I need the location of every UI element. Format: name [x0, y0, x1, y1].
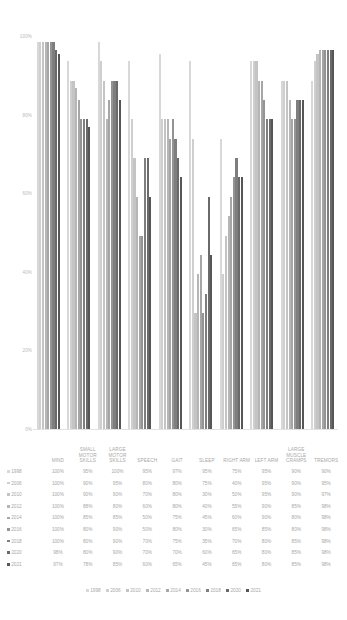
table-column-header: MIND [43, 434, 73, 466]
legend-swatch-icon [106, 589, 109, 592]
table-cell: 75% [192, 478, 222, 490]
legend-label: 2020 [230, 588, 240, 593]
series-swatch-icon [7, 528, 10, 531]
table-cell: 98% [311, 512, 341, 524]
table-cell: 80% [281, 512, 311, 524]
x-axis-line [33, 429, 338, 430]
table-cell: 90% [73, 489, 103, 501]
bar[interactable] [241, 177, 243, 429]
legend-swatch-icon [206, 589, 209, 592]
bar[interactable] [271, 119, 273, 429]
table-cell: 98% [311, 501, 341, 513]
table-cell: 70% [162, 547, 192, 559]
table-column-header: GAIT [162, 434, 192, 466]
table-row-year-label: 2020 [11, 550, 21, 555]
bar[interactable] [119, 100, 121, 429]
table-cell: 75% [162, 512, 192, 524]
legend-item[interactable]: 2016 [186, 588, 201, 593]
table-cell: 90% [281, 466, 311, 478]
bar-groups [33, 42, 338, 429]
table-cell: 35% [192, 536, 222, 548]
table-cell: 55% [222, 501, 252, 513]
table-cell: 80% [281, 524, 311, 536]
table-cell: 85% [103, 559, 133, 571]
table-cell: 65% [222, 547, 252, 559]
legend-item[interactable]: 2021 [246, 588, 261, 593]
table-cell: 75% [162, 536, 192, 548]
bar-group [33, 42, 64, 429]
table-cell: 90% [252, 512, 282, 524]
legend-swatch-icon [246, 589, 249, 592]
legend-swatch-icon [226, 589, 229, 592]
legend-item[interactable]: 2014 [166, 588, 181, 593]
data-table-wrapper: MINDSMALL MOTOR SKILLSLARGE MOTOR SKILLS… [6, 434, 341, 570]
series-swatch-icon [7, 517, 10, 520]
bar[interactable] [210, 255, 212, 429]
table-row-year-label: 2010 [11, 492, 21, 497]
table-cell: 65% [162, 559, 192, 571]
legend-item[interactable]: 2020 [226, 588, 241, 593]
table-row-key: 2018 [6, 536, 43, 548]
table-cell: 80% [162, 489, 192, 501]
bar[interactable] [58, 54, 60, 429]
table-cell: 90% [103, 536, 133, 548]
table-row-year-label: 2012 [11, 504, 21, 509]
table-row-year-label: 2014 [11, 515, 21, 520]
table-body: 1998100%95%100%95%97%95%75%95%90%90%2006… [6, 466, 341, 570]
table-column-header: SPEECH [132, 434, 162, 466]
bar-group [308, 42, 339, 429]
y-axis-tick-label: 100% [20, 34, 32, 39]
bar[interactable] [149, 197, 151, 429]
table-row: 2016100%80%90%50%80%30%65%85%80%98% [6, 524, 341, 536]
bar[interactable] [302, 100, 304, 429]
legend-item[interactable]: 2006 [106, 588, 121, 593]
y-axis-tick-label: 60% [23, 191, 33, 196]
table-cell: 70% [132, 547, 162, 559]
series-swatch-icon [7, 493, 10, 496]
table-row: 2018100%80%90%70%75%35%70%80%85%98% [6, 536, 341, 548]
plot-area [33, 42, 338, 429]
table-cell: 70% [132, 489, 162, 501]
table-cell: 95% [252, 478, 282, 490]
table-cell: 80% [132, 478, 162, 490]
bar[interactable] [332, 50, 334, 429]
table-row-year-label: 2006 [11, 481, 21, 486]
table-cell: 100% [43, 512, 73, 524]
legend-item[interactable]: 2012 [146, 588, 161, 593]
table-cell: 85% [73, 512, 103, 524]
legend-label: 2006 [110, 588, 120, 593]
bar[interactable] [88, 127, 90, 429]
table-cell: 65% [222, 559, 252, 571]
bar[interactable] [180, 177, 182, 429]
bar-group [64, 42, 95, 429]
table-row: 202098%80%90%70%70%60%65%80%85%98% [6, 547, 341, 559]
legend-swatch-icon [166, 589, 169, 592]
table-cell: 95% [192, 466, 222, 478]
legend-swatch-icon [146, 589, 149, 592]
table-cell: 80% [103, 501, 133, 513]
table-cell: 30% [192, 524, 222, 536]
table-cell: 90% [73, 478, 103, 490]
table-row: 2014100%85%85%50%75%45%60%90%80%98% [6, 512, 341, 524]
table-cell: 97% [162, 466, 192, 478]
legend-label: 2016 [190, 588, 200, 593]
table-cell: 90% [103, 547, 133, 559]
legend-item[interactable]: 2018 [206, 588, 221, 593]
table-cell: 70% [222, 536, 252, 548]
table-cell: 95% [311, 478, 341, 490]
table-column-header: LARGE MUSCLE CRAMPS [281, 434, 311, 466]
legend-item[interactable]: 1998 [86, 588, 101, 593]
table-row-key: 1998 [6, 466, 43, 478]
series-swatch-icon [7, 563, 10, 566]
table-cell: 90% [103, 524, 133, 536]
legend-item[interactable]: 2010 [126, 588, 141, 593]
table-cell: 98% [43, 547, 73, 559]
table-row: 2006100%90%95%80%80%75%40%95%90%95% [6, 478, 341, 490]
chart-root: 0%20%40%60%80%100% MINDSMALL MOTOR SKILL… [0, 0, 347, 620]
legend-label: 2021 [250, 588, 260, 593]
legend-label: 1998 [90, 588, 100, 593]
table-cell: 80% [252, 559, 282, 571]
table-cell: 98% [311, 536, 341, 548]
series-swatch-icon [7, 551, 10, 554]
table-cell: 90% [281, 489, 311, 501]
